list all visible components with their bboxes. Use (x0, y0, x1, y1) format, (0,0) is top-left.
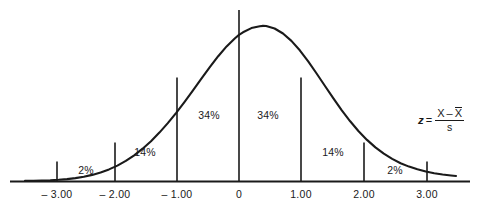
formula-variable-z: z (418, 114, 424, 126)
formula-fraction: X – X s (435, 108, 464, 133)
area-label-left-34: 34% (198, 109, 220, 121)
x-tick-label-pos-3: 3.00 (416, 188, 438, 200)
z-score-formula: z = X – X s (418, 108, 464, 133)
x-tick-label-zero: 0 (236, 188, 242, 200)
area-label-left-14: 14% (134, 146, 156, 158)
area-label-right-34: 34% (257, 109, 279, 121)
area-label-right-2: 2% (387, 164, 403, 176)
formula-numerator-minus: – (447, 108, 453, 119)
x-tick-label-neg-3: – 3.00 (42, 188, 73, 200)
formula-denominator: s (447, 121, 452, 133)
bell-curve-path (25, 26, 456, 181)
bell-curve-graphic (0, 0, 481, 207)
x-tick-label-pos-2: 2.00 (353, 188, 375, 200)
formula-numerator-xbar: X (455, 108, 462, 119)
x-tick-label-pos-1: 1.00 (290, 188, 312, 200)
normal-distribution-figure: 2% 14% 34% 34% 14% 2% – 3.00 – 2.00 – 1.… (0, 0, 481, 207)
formula-numerator: X – X (435, 108, 464, 120)
x-tick-label-neg-1: – 1.00 (162, 188, 193, 200)
formula-numerator-x: X (437, 108, 444, 119)
area-label-left-2: 2% (78, 164, 94, 176)
formula-equals-sign: = (426, 114, 432, 126)
x-tick-label-neg-2: – 2.00 (100, 188, 131, 200)
area-label-right-14: 14% (322, 146, 344, 158)
